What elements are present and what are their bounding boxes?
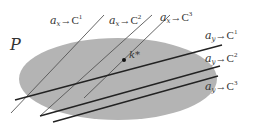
svg-text:ay→C3: ay→C3 xyxy=(205,79,238,94)
label-ax-c1: ax→C1 xyxy=(50,13,83,28)
label-ay-c2: ay→C2 xyxy=(205,51,238,66)
label-ax-c2: ax→C2 xyxy=(109,13,142,28)
diagram-canvas: k* P ax→C1 ax→C2 ax→C3 ay→C1 ay→C2 ay→C3 xyxy=(0,0,254,126)
svg-text:ax→C2: ax→C2 xyxy=(109,13,142,28)
point-label: k* xyxy=(129,49,140,60)
label-ax-c3: ax→C3 xyxy=(160,10,193,25)
svg-text:ay→C2: ay→C2 xyxy=(205,51,238,66)
label-ay-c3: ay→C3 xyxy=(205,79,238,94)
region-label: P xyxy=(9,35,21,54)
label-ay-c1: ay→C1 xyxy=(205,28,238,43)
svg-text:k*: k* xyxy=(129,49,140,60)
point-k-star xyxy=(122,58,126,62)
svg-text:ax→C3: ax→C3 xyxy=(160,10,193,25)
svg-text:ay→C1: ay→C1 xyxy=(205,28,238,43)
svg-text:ax→C1: ax→C1 xyxy=(50,13,83,28)
